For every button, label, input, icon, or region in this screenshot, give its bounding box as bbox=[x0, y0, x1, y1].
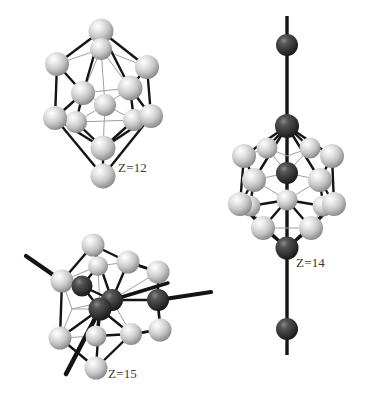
light-atom bbox=[139, 104, 163, 128]
light-atom bbox=[117, 251, 140, 274]
light-atom bbox=[120, 323, 142, 345]
light-atom bbox=[320, 144, 344, 168]
light-atom-center bbox=[94, 94, 116, 116]
light-atom bbox=[299, 216, 323, 240]
dark-atom-center bbox=[276, 162, 298, 184]
light-atom bbox=[232, 144, 256, 168]
light-atom bbox=[135, 55, 159, 79]
dark-atom-external-top bbox=[276, 34, 298, 56]
light-atom bbox=[118, 76, 143, 101]
dark-atom-apex-top bbox=[275, 114, 299, 138]
dark-atom-center bbox=[89, 298, 112, 321]
light-atom bbox=[90, 38, 112, 60]
light-atom bbox=[277, 190, 298, 211]
light-atom bbox=[82, 234, 105, 257]
light-atom bbox=[257, 138, 278, 159]
light-atom bbox=[88, 256, 108, 276]
cluster-z14 bbox=[228, 16, 346, 355]
cluster-label-z14: Z=14 bbox=[296, 255, 325, 271]
light-atom bbox=[147, 261, 170, 284]
light-atom bbox=[49, 327, 72, 350]
light-atom bbox=[43, 106, 67, 130]
dark-atom-external-bottom bbox=[276, 318, 298, 340]
light-atom bbox=[300, 138, 321, 159]
light-atom bbox=[228, 192, 252, 216]
light-atom bbox=[51, 270, 74, 293]
dark-atom bbox=[147, 289, 169, 311]
light-atom bbox=[71, 81, 95, 105]
light-atom bbox=[86, 326, 107, 347]
light-atom bbox=[322, 192, 346, 216]
light-atom bbox=[242, 168, 266, 192]
z15-atoms bbox=[49, 234, 172, 380]
light-atom bbox=[45, 52, 69, 76]
light-atom bbox=[308, 168, 332, 192]
light-atom bbox=[91, 164, 116, 189]
dark-atom bbox=[72, 276, 93, 297]
light-atom bbox=[65, 111, 87, 133]
light-atom bbox=[85, 357, 108, 380]
cluster-z15 bbox=[26, 234, 211, 380]
cluster-label-z15: Z=15 bbox=[108, 366, 137, 382]
cluster-figure bbox=[0, 0, 367, 400]
light-atom bbox=[251, 216, 275, 240]
light-atom bbox=[149, 319, 172, 342]
light-atom bbox=[91, 136, 116, 161]
cluster-label-z12: Z=12 bbox=[118, 160, 147, 176]
